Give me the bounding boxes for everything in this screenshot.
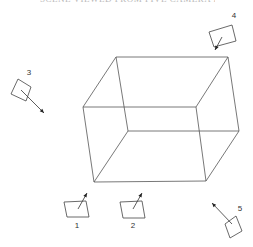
cube-edge bbox=[196, 57, 228, 107]
cube-edge bbox=[116, 57, 128, 131]
cube-edge bbox=[196, 107, 206, 181]
camera-label: 2 bbox=[131, 221, 136, 230]
cube-edge bbox=[206, 131, 239, 181]
camera-label: 4 bbox=[232, 11, 237, 20]
camera-label: 1 bbox=[75, 221, 80, 230]
cube-edge bbox=[228, 57, 239, 131]
camera-2: 2 bbox=[120, 193, 145, 230]
camera-1: 1 bbox=[64, 193, 89, 230]
camera-body-icon bbox=[120, 201, 145, 218]
cube-edge bbox=[94, 181, 206, 182]
camera-body-icon bbox=[64, 201, 89, 217]
view-direction-arrow bbox=[21, 90, 44, 113]
cube-edge bbox=[83, 107, 94, 182]
cube-edge bbox=[83, 57, 116, 107]
camera-4: 4 bbox=[209, 11, 237, 50]
view-direction-arrow bbox=[212, 203, 232, 224]
camera-5: 5 bbox=[212, 203, 243, 238]
camera-cube-diagram: 12345 bbox=[0, 0, 253, 247]
camera-body-icon bbox=[209, 25, 236, 47]
camera-label: 5 bbox=[238, 204, 243, 213]
camera-3: 3 bbox=[11, 68, 44, 113]
camera-label: 3 bbox=[27, 68, 32, 77]
wireframe-cube bbox=[83, 57, 239, 182]
cube-edge bbox=[94, 131, 128, 182]
